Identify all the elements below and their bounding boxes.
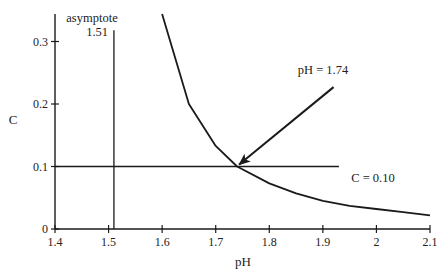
x-tick-label: 1.8 xyxy=(262,235,277,249)
ph-annotation-label: pH = 1.74 xyxy=(298,63,349,77)
axes: 1.41.51.61.71.81.922.100.10.20.3 xyxy=(33,14,438,249)
asymptote-label: asymptote xyxy=(66,11,118,25)
x-tick-label: 1.7 xyxy=(208,235,223,249)
x-tick-label: 2.1 xyxy=(423,235,438,249)
x-tick-label: 1.6 xyxy=(155,235,170,249)
y-tick-label: 0 xyxy=(42,222,48,236)
y-tick-label: 0.3 xyxy=(33,35,48,49)
x-tick-label: 1.4 xyxy=(48,235,63,249)
chart: 1.41.51.61.71.81.922.100.10.20.3 pH C as… xyxy=(0,0,445,279)
c-annotation-label: C = 0.10 xyxy=(351,171,395,185)
asymptote-value-label: 1.51 xyxy=(86,25,108,39)
y-axis-label: C xyxy=(9,112,18,127)
x-tick-label: 1.9 xyxy=(315,235,330,249)
annotations xyxy=(239,87,333,164)
data-series xyxy=(162,14,430,215)
reference-lines xyxy=(55,30,339,229)
curve-line xyxy=(162,14,430,215)
x-tick-label: 1.5 xyxy=(101,235,116,249)
annotation-arrow xyxy=(239,87,333,164)
y-tick-label: 0.2 xyxy=(33,97,48,111)
y-tick-label: 0.1 xyxy=(33,160,48,174)
x-tick-label: 2 xyxy=(373,235,379,249)
x-axis-label: pH xyxy=(235,254,251,269)
